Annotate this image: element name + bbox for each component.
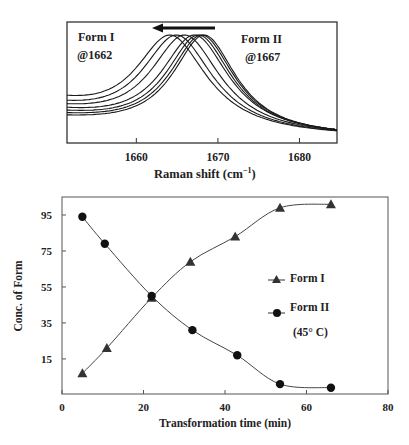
raman-x-axis-title-end: ): [251, 167, 255, 181]
conc-x-tick-label: 0: [59, 401, 65, 413]
raman-x-axis-title-sup: −1: [243, 166, 252, 175]
raman-x-tick-label: 1680: [288, 151, 311, 163]
conc-y-tick-label: 35: [41, 317, 53, 329]
conc-axis-ticks: 0204060801535557595: [41, 209, 394, 413]
circle-marker-icon: [78, 213, 86, 221]
circle-marker-icon: [276, 380, 284, 388]
raman-x-axis-title: Raman shift (cm−1): [154, 166, 256, 181]
triangle-marker-icon: [272, 275, 281, 283]
conc-x-tick-label: 20: [138, 401, 150, 413]
triangle-marker-icon: [230, 232, 240, 241]
form1-peak-label: @1662: [77, 48, 112, 62]
legend-form1-label: Form I: [290, 272, 325, 284]
raman-spectrum-panel: 166016701680 Form I @1662 Form II @1667 …: [67, 22, 337, 181]
conc-y-tick-label: 15: [41, 353, 53, 365]
legend-temperature-label: (45° C): [293, 326, 328, 339]
conc-y-tick-label: 95: [41, 209, 53, 221]
legend: Form I Form II (45° C): [268, 272, 330, 339]
circle-marker-icon: [101, 240, 109, 248]
conc-x-tick-label: 80: [383, 401, 395, 413]
circle-marker-icon: [188, 326, 196, 334]
conc-x-axis-title: Transformation time (min): [159, 417, 291, 430]
legend-form2-label: Form II: [290, 301, 330, 313]
conc-x-tick-label: 40: [220, 401, 232, 413]
form2-label: Form II: [241, 32, 282, 46]
conc-series: [77, 199, 336, 392]
circle-marker-icon: [273, 309, 281, 317]
raman-x-ticks: 166016701680: [125, 138, 311, 163]
triangle-marker-icon: [185, 257, 195, 266]
conc-x-tick-label: 60: [301, 401, 313, 413]
triangle-marker-icon: [326, 199, 336, 208]
conc-y-tick-label: 75: [41, 245, 53, 257]
shift-arrow: [152, 24, 215, 33]
raman-x-axis-title-main: Raman shift (cm: [154, 167, 243, 181]
circle-marker-icon: [147, 292, 155, 300]
form2-peak-label: @1667: [245, 50, 280, 64]
raman-x-tick-label: 1660: [125, 151, 148, 163]
conc-plot-frame: [62, 197, 388, 394]
form1-label: Form I: [78, 30, 115, 44]
conversion-panel: 0204060801535557595 Form I Form II (45° …: [12, 197, 394, 430]
circle-marker-icon: [327, 384, 335, 392]
circle-marker-icon: [233, 351, 241, 359]
arrow-left-icon: [152, 24, 163, 33]
raman-x-tick-label: 1670: [206, 151, 229, 163]
series-line-form-i: [82, 204, 331, 373]
conc-y-tick-label: 55: [41, 281, 53, 293]
figure: 166016701680 Form I @1662 Form II @1667 …: [0, 0, 409, 445]
conc-y-axis-title: Conc. of Form: [12, 260, 24, 332]
